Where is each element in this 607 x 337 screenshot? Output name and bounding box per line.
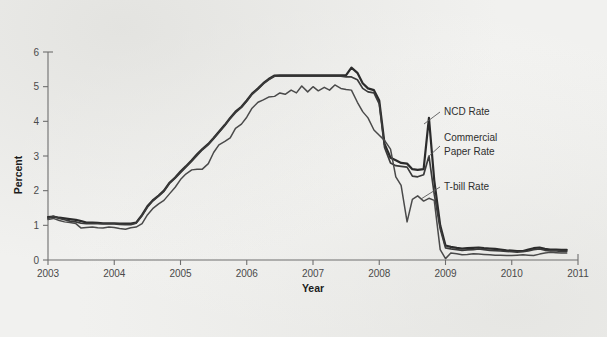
y-tick-marks	[43, 52, 48, 260]
x-tick-label-2010: 2010	[501, 268, 524, 279]
annotation-label-commercial-paper-line2: Paper Rate	[444, 146, 495, 157]
x-tick-label-2008: 2008	[368, 268, 391, 279]
y-tick-label-5: 5	[33, 81, 39, 92]
data-series-group	[48, 68, 567, 259]
ncd-leader-line	[424, 112, 440, 124]
series-line-commercial-paper-rate	[48, 76, 567, 252]
x-tick-label-2006: 2006	[236, 268, 259, 279]
commercial-paper-leader-line	[428, 146, 440, 157]
x-tick-label-2003: 2003	[37, 268, 60, 279]
y-axis-title: Percent	[12, 155, 24, 194]
x-tick-label-2011: 2011	[567, 268, 589, 279]
x-tick-label-2004: 2004	[103, 268, 126, 279]
series-line-ncd-rate	[48, 68, 567, 251]
y-axis-tick-labels: 0123456	[33, 47, 39, 266]
y-tick-label-3: 3	[33, 151, 39, 162]
annotation-label-ncd: NCD Rate	[444, 106, 490, 117]
x-axis-tick-labels: 200320042005200620072008200920102011	[37, 268, 589, 279]
y-tick-label-0: 0	[33, 255, 39, 266]
x-tick-label-2007: 2007	[302, 268, 325, 279]
y-tick-label-1: 1	[33, 220, 39, 231]
x-tick-label-2005: 2005	[169, 268, 192, 279]
x-tick-label-2009: 2009	[434, 268, 457, 279]
annotation-label-commercial-paper-line1: Commercial	[444, 132, 497, 143]
axes-group	[43, 52, 578, 265]
y-tick-label-4: 4	[33, 116, 39, 127]
x-tick-marks	[48, 260, 578, 265]
interest-rates-line-chart: 0123456 20032004200520062007200820092010…	[0, 0, 607, 337]
y-tick-label-6: 6	[33, 47, 39, 58]
annotation-label-tbill: T-bill Rate	[444, 181, 489, 192]
y-tick-label-2: 2	[33, 185, 39, 196]
x-axis-title: Year	[302, 282, 324, 294]
